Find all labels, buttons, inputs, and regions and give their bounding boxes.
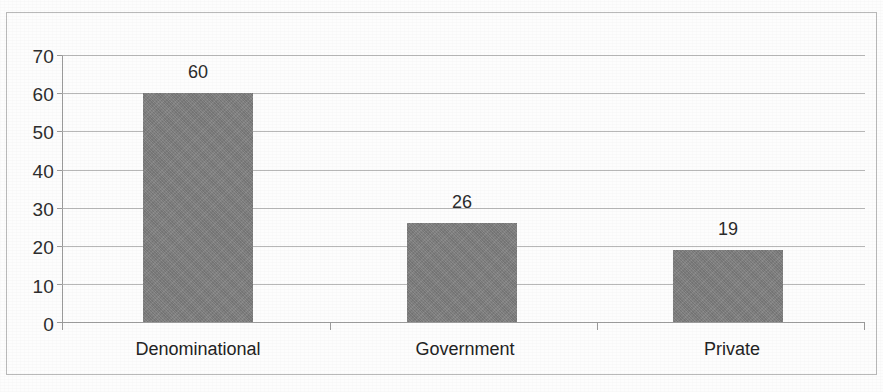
y-tick-label-10: 10 [10, 277, 54, 296]
bar-denominational[interactable] [143, 93, 253, 322]
bar-chart: 70 60 50 40 30 20 10 0 60 26 19 Denomin [0, 0, 883, 392]
y-tick-label-0: 0 [10, 315, 54, 334]
category-tick-end [864, 322, 865, 330]
category-tick-1 [330, 322, 331, 330]
gridline-0-baseline [62, 322, 865, 323]
category-label-government: Government [385, 340, 545, 358]
y-tick-label-20: 20 [10, 238, 54, 257]
gridline-70 [62, 55, 865, 56]
bar-private[interactable] [673, 250, 783, 322]
category-tick-2 [597, 322, 598, 330]
y-tick-label-30: 30 [10, 200, 54, 219]
category-label-private: Private [652, 340, 812, 358]
category-tick-start [62, 322, 63, 330]
bar-value-label-private: 19 [673, 220, 783, 238]
y-tick-label-70: 70 [10, 47, 54, 66]
bar-value-label-denominational: 60 [143, 63, 253, 81]
y-tick-label-50: 50 [10, 123, 54, 142]
y-tick-label-60: 60 [10, 85, 54, 104]
category-label-denominational: Denominational [118, 340, 278, 358]
bar-value-label-government: 26 [407, 193, 517, 211]
plot-area [62, 55, 865, 322]
y-tick-label-40: 40 [10, 162, 54, 181]
bar-government[interactable] [407, 223, 517, 322]
